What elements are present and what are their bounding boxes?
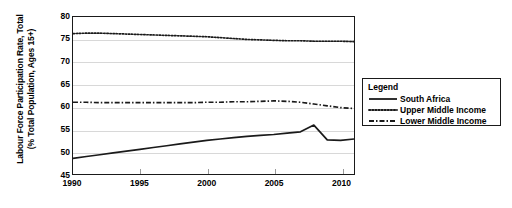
series-line bbox=[73, 101, 354, 109]
legend-items: South AfricaUpper Middle IncomeLower Mid… bbox=[368, 93, 500, 126]
y-axis-tick-label: 55 bbox=[42, 125, 70, 134]
legend-item: Lower Middle Income bbox=[368, 115, 500, 126]
y-axis-tick-label: 80 bbox=[42, 12, 70, 21]
y-axis-title-line1: Labour Force Participation Rate, Total bbox=[15, 0, 26, 179]
y-axis-tick-label: 50 bbox=[42, 148, 70, 157]
series-lines bbox=[73, 17, 354, 174]
legend-item: Upper Middle Income bbox=[368, 104, 500, 115]
legend-label: Upper Middle Income bbox=[400, 105, 486, 115]
x-axis-tick-label: 1990 bbox=[52, 178, 92, 188]
line-chart: Labour Force Participation Rate, Total (… bbox=[0, 0, 512, 208]
legend-swatch-dotted bbox=[368, 105, 398, 115]
x-axis-tick-label: 2000 bbox=[187, 178, 227, 188]
y-axis-tick-label: 60 bbox=[42, 102, 70, 111]
legend-label: Lower Middle Income bbox=[400, 116, 486, 126]
x-axis-tick-labels: 19901995200020052010 bbox=[0, 178, 512, 194]
x-axis-tick-label: 1995 bbox=[119, 178, 159, 188]
y-axis-tick-labels: 4550556065707580 bbox=[40, 0, 70, 208]
y-axis-tick-label: 70 bbox=[42, 57, 70, 66]
series-line bbox=[73, 33, 354, 42]
legend-item: South Africa bbox=[368, 93, 500, 104]
y-axis-title-line2: (% Total Population, Ages 15+) bbox=[26, 0, 37, 179]
legend-title: Legend bbox=[368, 82, 500, 92]
x-axis-tick-label: 2005 bbox=[254, 178, 294, 188]
series-line bbox=[73, 125, 354, 158]
legend-swatch-dashdot bbox=[368, 116, 398, 126]
y-axis-tick-label: 65 bbox=[42, 80, 70, 89]
legend-label: South Africa bbox=[400, 94, 450, 104]
legend-swatch-solid bbox=[368, 94, 398, 104]
y-axis-tick-label: 75 bbox=[42, 34, 70, 43]
plot-area bbox=[72, 16, 355, 175]
legend-box: Legend South AfricaUpper Middle IncomeLo… bbox=[362, 78, 501, 126]
x-axis-tick-label: 2010 bbox=[322, 178, 362, 188]
